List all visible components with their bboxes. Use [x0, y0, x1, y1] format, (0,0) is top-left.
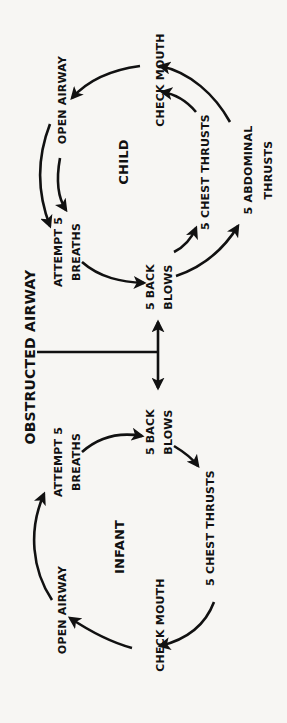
title-obstructed-airway: OBSTRUCTED AIRWAY — [22, 269, 38, 445]
child-open-airway: OPEN AIRWAY — [56, 55, 69, 144]
infant-chest-thrusts: 5 CHEST THRUSTS — [204, 470, 217, 586]
infant-heading: INFANT — [112, 520, 127, 574]
arrow-chest-thrusts-to-check-mouth — [162, 92, 196, 112]
infant-attempt-breaths-line1: ATTEMPT 5 — [52, 427, 65, 497]
diagram-canvas: OBSTRUCTED AIRWAY CHILD CHECK MOUTH OPEN… — [0, 0, 287, 723]
arrow-check-mouth-to-open-airway — [70, 618, 132, 648]
t-connector — [37, 322, 158, 388]
arrow-back-blows-to-chest-thrusts — [174, 228, 196, 252]
infant-attempt-breaths-line2: BREATHS — [70, 433, 83, 491]
infant-back-blows-line1: 5 BACK — [144, 409, 157, 455]
child-attempt-breaths-line1: ATTEMPT 5 — [52, 217, 65, 287]
arrow-open-airway-to-breaths-inner — [58, 158, 66, 210]
airway-diagram: OBSTRUCTED AIRWAY CHILD CHECK MOUTH OPEN… — [0, 0, 287, 723]
arrow-open-airway-to-breaths — [34, 494, 52, 600]
arrow-check-mouth-to-open-airway-outer — [72, 66, 140, 98]
infant-open-airway: OPEN AIRWAY — [56, 565, 69, 654]
arrow-open-airway-to-breaths-outer — [40, 124, 50, 226]
child-back-blows-line2: BLOWS — [162, 264, 175, 309]
child-abdominal-thrusts-line2: THRUSTS — [262, 141, 275, 200]
child-heading: CHILD — [116, 139, 131, 184]
infant-check-mouth: CHECK MOUTH — [154, 578, 167, 671]
arrow-back-blows-to-abdominal — [176, 226, 238, 276]
infant-cycle: INFANT ATTEMPT 5 BREATHS 5 BACK BLOWS 5 … — [34, 409, 217, 672]
arrow-breaths-to-back-blows — [82, 262, 144, 283]
infant-back-blows-line2: BLOWS — [162, 409, 175, 454]
arrow-breaths-to-back-blows — [82, 435, 142, 452]
child-cycle: CHILD CHECK MOUTH OPEN AIRWAY 5 CHEST TH… — [40, 33, 275, 310]
child-attempt-breaths-line2: BREATHS — [70, 223, 83, 281]
child-back-blows-line1: 5 BACK — [144, 264, 157, 310]
child-check-mouth: CHECK MOUTH — [154, 33, 167, 126]
child-chest-thrusts: 5 CHEST THRUSTS — [199, 114, 212, 230]
child-abdominal-thrusts-line1: 5 ABDOMINAL — [242, 126, 255, 215]
arrow-back-blows-to-chest-thrusts — [174, 446, 198, 466]
arrow-chest-thrusts-to-check-mouth — [160, 602, 214, 646]
